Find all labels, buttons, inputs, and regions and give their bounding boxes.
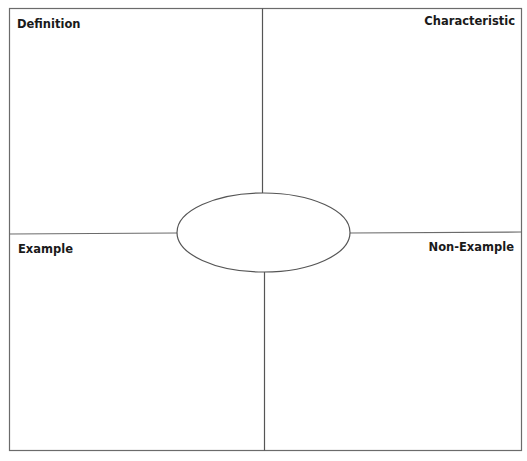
horizontal-divider-left — [10, 233, 178, 234]
horizontal-divider-right — [350, 232, 522, 233]
quadrant-label-non-example: Non-Example — [429, 240, 514, 254]
quadrant-label-characteristic: Characteristic — [424, 14, 515, 28]
quadrant-label-example: Example — [18, 242, 73, 256]
frayer-diagram — [0, 0, 527, 461]
quadrant-label-definition: Definition — [17, 17, 81, 31]
center-oval[interactable] — [177, 193, 350, 272]
